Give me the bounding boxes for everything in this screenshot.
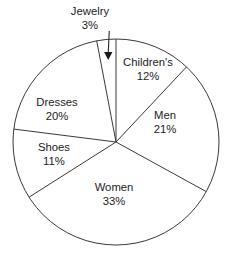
slice-label-jewelry: Jewelry3% [71,5,110,31]
pie-chart: Children's12%Men21%Women33%Shoes11%Dress… [0,0,228,257]
pie-chart-canvas: Children's12%Men21%Women33%Shoes11%Dress… [0,0,228,257]
